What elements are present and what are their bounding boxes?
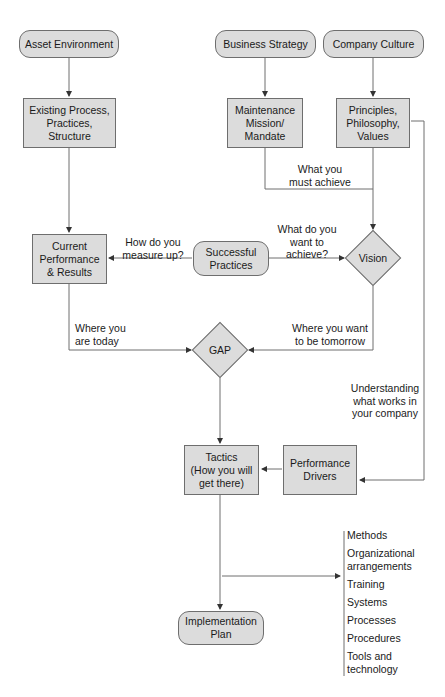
edge-label-where-today: Where you are today: [75, 322, 126, 347]
list-item-processes: Processes: [347, 614, 415, 627]
edge-label-want-to-achieve: What do you want to achieve?: [272, 223, 342, 261]
list-item-training: Training: [347, 578, 415, 591]
edge-label-understanding: Understanding what works in your company: [348, 382, 422, 420]
list-item-methods: Methods: [347, 529, 415, 542]
business-strategy-node: Business Strategy: [215, 30, 316, 58]
vision-label: Vision: [343, 252, 403, 264]
edge-label-must-achieve: What you must achieve: [285, 163, 355, 188]
edge-label-where-tomorrow: Where you want to be tomorrow: [290, 322, 370, 347]
principles-node: Principles, Philosophy, Values: [336, 98, 410, 148]
list-item-tools: Tools and technology: [347, 650, 415, 675]
edge-label-measure-up: How do you measure up?: [118, 236, 188, 261]
performance-drivers-node: Performance Drivers: [283, 445, 357, 495]
asset-environment-node: Asset Environment: [19, 30, 119, 58]
implementation-plan-node: Implementation Plan: [178, 611, 264, 645]
current-performance-node: Current Performance & Results: [32, 234, 107, 284]
successful-practices-node: Successful Practices: [193, 241, 269, 276]
tactics-list: Methods Organizational arrangements Trai…: [347, 529, 415, 681]
list-item-procedures: Procedures: [347, 632, 415, 645]
list-item-organizational: Organizational arrangements: [347, 547, 415, 572]
maintenance-mission-node: Maintenance Mission/ Mandate: [227, 98, 303, 148]
company-culture-node: Company Culture: [323, 30, 424, 58]
gap-label: GAP: [190, 344, 250, 356]
existing-process-node: Existing Process, Practices, Structure: [23, 98, 116, 148]
list-item-systems: Systems: [347, 596, 415, 609]
tactics-node: Tactics (How you will get there): [184, 445, 259, 495]
